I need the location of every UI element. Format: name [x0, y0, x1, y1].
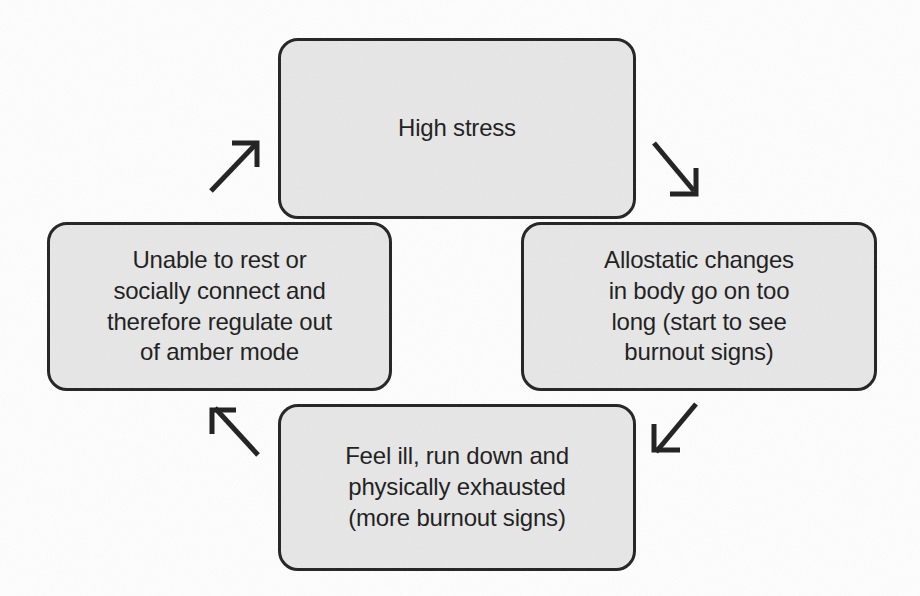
edge-bottom-to-left-arrow	[212, 408, 258, 455]
edge-top-to-right-arrow	[654, 143, 696, 194]
arrow-layer	[0, 0, 920, 596]
diagram-canvas: High stress Allostatic changes in body g…	[0, 0, 920, 596]
edge-left-to-top-arrow	[211, 143, 257, 191]
edge-right-to-bottom-arrow	[654, 404, 696, 452]
